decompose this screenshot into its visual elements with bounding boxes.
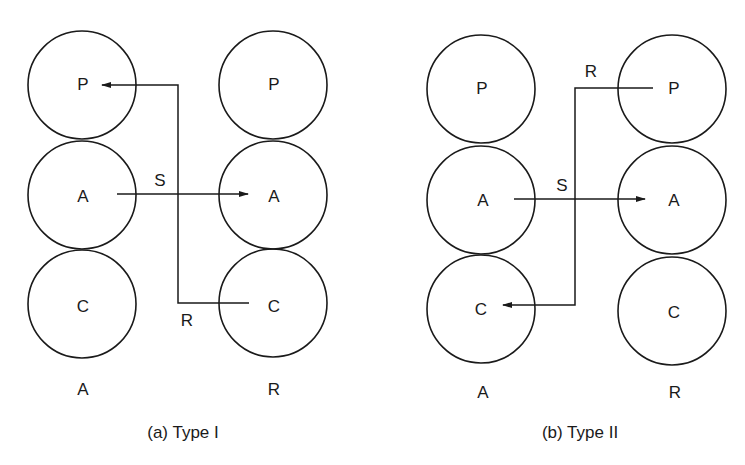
column-label-right: R bbox=[268, 380, 280, 399]
panel-type-2: P A C P A C R S A R (b) Type II bbox=[427, 35, 726, 442]
circle-label: P bbox=[476, 79, 487, 98]
circle-label: C bbox=[475, 300, 487, 319]
arrow-label-r: R bbox=[585, 62, 597, 81]
column-label-left: A bbox=[477, 383, 489, 402]
circle-label: A bbox=[268, 187, 280, 206]
right-column-r: P A C bbox=[618, 35, 726, 365]
circle-label: P bbox=[77, 75, 88, 94]
panel-type-1: P A C P A C S R A R (a) Type I bbox=[28, 31, 327, 442]
caption: (b) Type II bbox=[542, 423, 618, 442]
arrow-label-s: S bbox=[556, 176, 567, 195]
circle-label: C bbox=[268, 297, 280, 316]
column-label-left: A bbox=[77, 380, 89, 399]
circle-label: A bbox=[668, 191, 680, 210]
arrow-label-r: R bbox=[181, 311, 193, 330]
circle-label: P bbox=[668, 79, 679, 98]
circle-label: C bbox=[668, 303, 680, 322]
caption: (a) Type I bbox=[147, 423, 219, 442]
arrow-label-s: S bbox=[154, 171, 165, 190]
circle-label: A bbox=[77, 187, 89, 206]
diagram-canvas: P A C P A C S R A R (a) Type I P A C bbox=[0, 0, 745, 465]
circle-label: A bbox=[477, 191, 489, 210]
circle-label: C bbox=[77, 297, 89, 316]
circle-label: P bbox=[268, 75, 279, 94]
column-label-right: R bbox=[669, 383, 681, 402]
